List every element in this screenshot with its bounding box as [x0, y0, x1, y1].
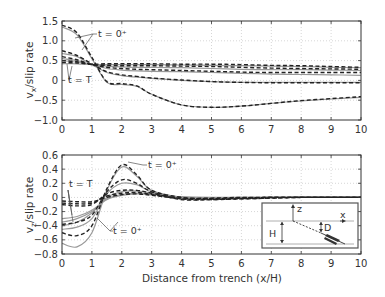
- svg-text:0: 0: [52, 75, 58, 86]
- svg-text:2: 2: [119, 258, 125, 269]
- svg-text:7: 7: [268, 124, 274, 135]
- svg-text:4: 4: [178, 258, 184, 269]
- bottom-y-axis-label: vz/slip rate: [23, 177, 38, 233]
- svg-text:D: D: [324, 222, 331, 233]
- svg-text:H: H: [269, 228, 276, 239]
- svg-text:0.5: 0.5: [42, 55, 58, 66]
- svg-text:−0.6: −0.6: [34, 234, 58, 245]
- svg-text:−0.2: −0.2: [34, 206, 58, 217]
- svg-text:1: 1: [89, 124, 95, 135]
- svg-text:5: 5: [208, 258, 214, 269]
- svg-text:t = 0⁺: t = 0⁺: [113, 225, 142, 236]
- svg-text:1: 1: [89, 258, 95, 269]
- svg-text:4: 4: [178, 124, 184, 135]
- svg-text:−1.0: −1.0: [34, 115, 58, 126]
- svg-text:3: 3: [149, 258, 155, 269]
- svg-text:1.0: 1.0: [42, 35, 58, 46]
- svg-text:−0.5: −0.5: [34, 95, 58, 106]
- x-axis-label: Distance from trench (x/H): [142, 272, 282, 284]
- svg-text:t = T: t = T: [68, 74, 92, 85]
- svg-text:10: 10: [355, 124, 368, 135]
- svg-text:−0.8: −0.8: [34, 249, 58, 260]
- svg-text:3: 3: [149, 124, 155, 135]
- svg-text:0.2: 0.2: [42, 178, 58, 189]
- svg-text:0.4: 0.4: [42, 164, 58, 175]
- svg-text:6: 6: [238, 258, 244, 269]
- svg-text:x: x: [340, 209, 346, 220]
- top-y-axis-label: vx/slip rate: [23, 42, 38, 99]
- svg-text:0: 0: [52, 192, 58, 203]
- top-panel: 0123456789101.51.00.50−0.5−1.0 vx/slip r…: [23, 16, 367, 136]
- svg-text:9: 9: [328, 258, 334, 269]
- top-annotation-t0: t = 0⁺: [75, 28, 127, 50]
- svg-text:0.6: 0.6: [42, 150, 58, 161]
- svg-text:5: 5: [208, 124, 214, 135]
- svg-text:8: 8: [298, 258, 304, 269]
- svg-text:8: 8: [298, 124, 304, 135]
- svg-text:z: z: [297, 203, 302, 214]
- svg-text:0: 0: [59, 124, 65, 135]
- svg-text:1.5: 1.5: [42, 16, 58, 27]
- top-annotation-tT: t = T: [67, 64, 92, 85]
- inset-diagram: z x H D: [262, 203, 358, 248]
- svg-text:2: 2: [119, 124, 125, 135]
- bottom-panel: 0123456789100.60.40.20−0.2−0.4−0.6−0.8 v…: [23, 150, 367, 285]
- svg-text:9: 9: [328, 124, 334, 135]
- svg-text:t = 0⁺: t = 0⁺: [148, 159, 177, 170]
- svg-text:t = 0⁺: t = 0⁺: [98, 28, 127, 39]
- figure: 0123456789101.51.00.50−0.5−1.0 vx/slip r…: [0, 0, 385, 297]
- svg-text:0: 0: [59, 258, 65, 269]
- svg-text:6: 6: [238, 124, 244, 135]
- svg-text:10: 10: [355, 258, 368, 269]
- bottom-annotation-t0-top: t = 0⁺: [128, 159, 177, 170]
- svg-text:t = T: t = T: [69, 178, 93, 189]
- bottom-annotation-t0-bottom: t = 0⁺: [97, 218, 142, 236]
- svg-text:7: 7: [268, 258, 274, 269]
